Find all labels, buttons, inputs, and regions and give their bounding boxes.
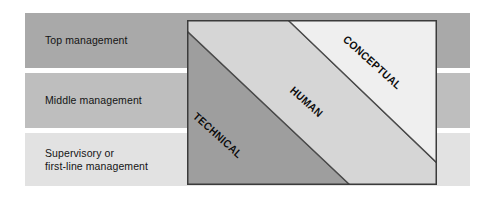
management-skills-figure: Top management Middle management Supervi…: [0, 0, 495, 207]
level-label-middle-management: Middle management: [45, 94, 142, 107]
level-label-supervisory-management: Supervisory or first-line management: [45, 147, 148, 173]
level-label-top-management: Top management: [45, 34, 128, 47]
